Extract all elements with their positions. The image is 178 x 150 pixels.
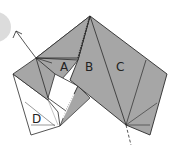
step-circle — [0, 12, 11, 42]
origami-diagram: A B C D — [0, 0, 178, 150]
fold-arrow — [16, 31, 36, 58]
label-c: C — [116, 60, 124, 74]
label-a: A — [60, 60, 69, 74]
label-d: D — [32, 112, 41, 126]
fold-line — [126, 125, 131, 145]
label-b: B — [85, 60, 93, 74]
